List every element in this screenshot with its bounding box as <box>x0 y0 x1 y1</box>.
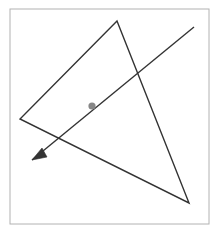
interior-point <box>88 102 95 109</box>
figure-canvas <box>0 0 218 233</box>
geometry-figure <box>0 0 218 233</box>
